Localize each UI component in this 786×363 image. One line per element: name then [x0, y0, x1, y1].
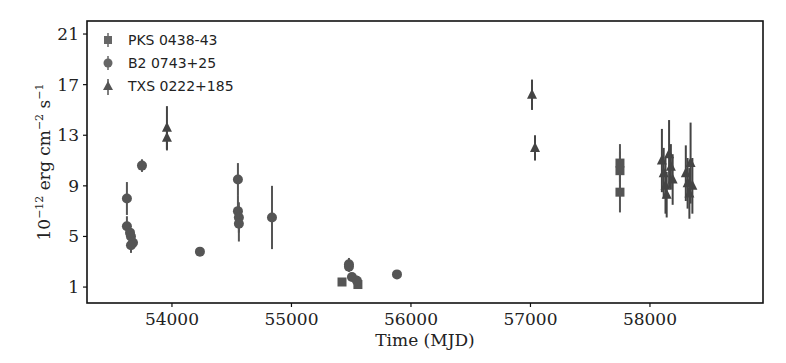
y-tick-label: 9 — [68, 176, 79, 196]
legend: PKS 0438-43 B2 0743+25 TXS 0222+185 — [103, 32, 234, 95]
square-marker-icon — [104, 36, 112, 44]
data-point — [195, 247, 205, 257]
data-point — [267, 186, 277, 249]
y-tick-label: 21 — [57, 24, 79, 44]
x-axis-label: Time (MJD) — [375, 330, 474, 350]
y-tick-label: 13 — [57, 125, 79, 145]
data-points — [122, 80, 697, 289]
x-tick-label: 57000 — [503, 309, 557, 329]
data-point — [530, 135, 540, 160]
y-axis-label: 10−12 erg cm−2 s−1 — [33, 84, 54, 241]
x-tick-label: 54000 — [145, 309, 199, 329]
data-point — [352, 276, 362, 286]
x-tick-label: 55000 — [264, 309, 318, 329]
y-axis-ticks: 159131721 — [57, 24, 87, 297]
data-point — [137, 159, 147, 172]
x-tick-label: 58000 — [623, 309, 677, 329]
y-tick-label: 5 — [68, 226, 79, 246]
data-point — [233, 163, 243, 196]
triangle-marker-icon — [103, 81, 113, 90]
data-point — [392, 269, 402, 279]
y-tick-label: 17 — [57, 75, 79, 95]
y-tick-label: 1 — [68, 277, 79, 297]
data-point — [338, 277, 347, 286]
data-point — [527, 80, 537, 110]
x-axis-ticks: 5400055000560005700058000 — [145, 303, 677, 329]
light-curve-chart: 5400055000560005700058000 159131721 Time… — [0, 0, 786, 363]
legend-item-txs: TXS 0222+185 — [103, 78, 234, 95]
data-point — [615, 172, 624, 212]
svg-text:B2 0743+25: B2 0743+25 — [128, 55, 216, 71]
svg-text:TXS 0222+185: TXS 0222+185 — [127, 78, 234, 94]
x-tick-label: 56000 — [384, 309, 438, 329]
svg-text:PKS 0438-43: PKS 0438-43 — [128, 32, 217, 48]
legend-item-pks: PKS 0438-43 — [104, 32, 217, 48]
data-point — [344, 262, 354, 272]
data-point — [122, 182, 132, 215]
circle-marker-icon — [104, 59, 113, 68]
legend-item-b2: B2 0743+25 — [104, 55, 217, 71]
